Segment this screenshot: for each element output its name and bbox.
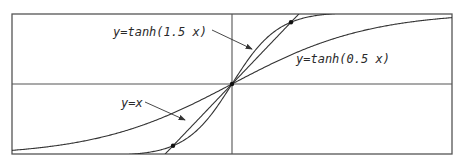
intersection-point [171,144,175,148]
label-tanh-0-5x: y=tanh(0.5 x) [295,52,390,66]
intersection-point [289,20,293,24]
intersection-point [230,82,234,86]
label-tanh-1-5x: y=tanh(1.5 x) [112,25,207,39]
label-identity: y=x [120,96,143,110]
chart-canvas: y=tanh(1.5 x) y=tanh(0.5 x) y=x [0,0,461,164]
